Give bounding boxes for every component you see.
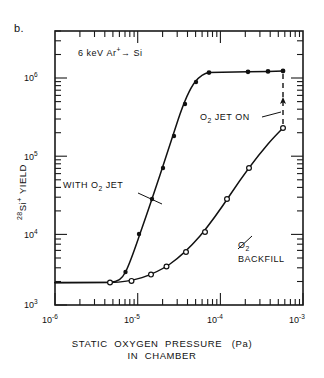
data-point [246,69,251,74]
data-point [123,270,127,274]
figure-panel-b: b. 28Si+ YIELD 106 105 104 103 10-6 10-5… [0,0,324,378]
data-point [183,102,187,106]
series-o2-backfill [55,126,285,285]
y-axis-ticks-right [291,41,303,282]
x-axis-ticks-top [80,31,300,43]
jet-on-transition-arrow [280,74,286,124]
data-point [225,197,230,202]
data-point [161,166,165,170]
y-axis-ticks-left [55,31,67,305]
x-axis-ticks [55,293,303,305]
series-with-o2-jet-markers [108,69,286,285]
data-point [108,280,113,285]
data-point [281,69,286,74]
data-point [149,272,154,277]
data-point [207,70,212,75]
data-point [247,166,252,171]
series-o2-backfill-markers [108,126,286,285]
data-point [281,126,286,131]
data-point [194,80,198,84]
data-point [164,264,169,269]
data-point [137,232,141,236]
series-with-o2-jet [55,69,285,285]
leader-line-with-o2-jet [138,193,162,204]
data-point [203,230,208,235]
annotation-leader-lines [138,112,281,249]
data-point [266,69,271,74]
data-point [184,250,189,255]
data-point [172,134,176,138]
leader-line-o2-backfill [238,236,252,249]
data-point [129,279,134,284]
plot-canvas [0,0,324,378]
leader-line-o2-jet-on [262,112,281,117]
